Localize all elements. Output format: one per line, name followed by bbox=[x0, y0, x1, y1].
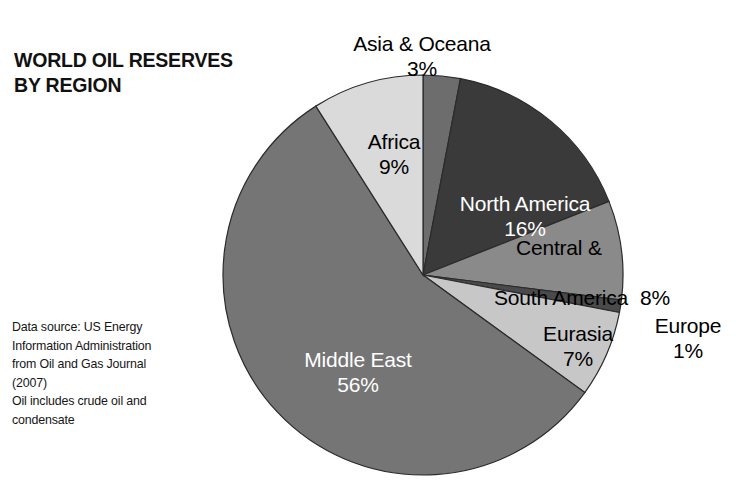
slice-value-asia-oceana: 3% bbox=[322, 56, 522, 81]
slice-label-europe-name: Europe bbox=[655, 314, 722, 337]
slice-value-middle-east: 56% bbox=[258, 372, 458, 397]
slice-label-africa-name: Africa bbox=[368, 130, 420, 153]
slice-label-middle-east: Middle East 56% bbox=[258, 322, 458, 422]
slice-label-asia-oceana-name: Asia & Oceana bbox=[353, 32, 490, 55]
slice-label-eurasia-name: Eurasia bbox=[543, 322, 613, 345]
slice-label-central-south-america-line1: Central & bbox=[494, 235, 742, 260]
slice-label-asia-oceana: Asia & Oceana 3% bbox=[322, 6, 522, 106]
slice-value-eurasia: 7% bbox=[522, 346, 634, 371]
slice-label-eurasia: Eurasia 7% bbox=[522, 296, 634, 396]
pie-chart-figure: WORLD OIL RESERVES BY REGION Data source… bbox=[0, 0, 742, 482]
slice-label-europe: Europe 1% bbox=[636, 288, 740, 388]
slice-value-europe: 1% bbox=[636, 338, 740, 363]
slice-label-middle-east-name: Middle East bbox=[304, 348, 412, 371]
